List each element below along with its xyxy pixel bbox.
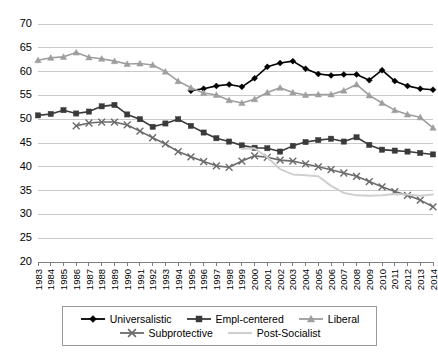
x-axis-tick-label: 2008 bbox=[351, 269, 362, 290]
data-point bbox=[213, 83, 219, 89]
legend-label: Liberal bbox=[328, 313, 360, 325]
series-empl-centered bbox=[35, 102, 435, 157]
y-axis-tick-label: 40 bbox=[20, 160, 32, 172]
x-axis-tick-label: 1998 bbox=[224, 269, 235, 290]
x-axis-tick-label: 1988 bbox=[96, 269, 107, 290]
data-point bbox=[73, 49, 79, 55]
data-point bbox=[379, 100, 385, 106]
data-point bbox=[430, 203, 437, 210]
data-point bbox=[354, 71, 360, 77]
data-point bbox=[277, 149, 282, 154]
data-point bbox=[367, 142, 372, 147]
y-axis-tick-label: 35 bbox=[20, 184, 32, 196]
data-point bbox=[176, 117, 181, 122]
series-universalistic bbox=[188, 58, 436, 94]
chart-legend: UniversalisticEmpl-centeredLiberal Subpr… bbox=[62, 306, 377, 346]
x-axis-tick-label: 1996 bbox=[198, 269, 209, 290]
legend-marker-triangle-icon bbox=[298, 313, 324, 325]
data-point bbox=[405, 149, 410, 154]
data-point bbox=[353, 81, 359, 87]
legend-item-post-socialist[interactable]: Post-Socialist bbox=[227, 327, 321, 339]
series-liberal bbox=[35, 49, 436, 130]
x-axis-tick-label: 1999 bbox=[236, 269, 247, 290]
plot-area: 2025303540455055606570198319841985198619… bbox=[0, 0, 438, 300]
data-point bbox=[188, 123, 193, 128]
x-axis-tick-label: 2014 bbox=[428, 269, 438, 290]
data-point bbox=[328, 136, 333, 141]
x-axis-tick-label: 1986 bbox=[71, 269, 82, 290]
legend-item-empl-centered[interactable]: Empl-centered bbox=[186, 313, 284, 325]
data-point bbox=[150, 124, 155, 129]
data-point bbox=[392, 148, 397, 153]
y-axis-tick-label: 45 bbox=[20, 136, 32, 148]
data-point bbox=[239, 143, 244, 148]
data-point bbox=[74, 111, 79, 116]
legend-label: Subprotective bbox=[149, 327, 213, 339]
x-axis-tick-label: 1987 bbox=[84, 269, 95, 290]
x-axis-tick-label: 2010 bbox=[377, 269, 388, 290]
x-axis-tick-label: 1995 bbox=[186, 269, 197, 290]
data-point bbox=[214, 136, 219, 141]
data-point bbox=[290, 143, 295, 148]
x-axis-tick-label: 1994 bbox=[173, 269, 184, 290]
data-point bbox=[354, 135, 359, 140]
x-axis-tick-label: 2013 bbox=[415, 269, 426, 290]
data-point bbox=[277, 85, 283, 91]
legend-row-2: SubprotectivePost-Socialist bbox=[119, 327, 321, 339]
data-point bbox=[162, 141, 169, 148]
data-point bbox=[99, 104, 104, 109]
x-axis-tick-label: 1985 bbox=[58, 269, 69, 290]
data-point bbox=[303, 139, 308, 144]
x-axis-tick-label: 2003 bbox=[287, 269, 298, 290]
y-axis-tick-label: 65 bbox=[20, 41, 32, 53]
x-axis-tick-label: 2007 bbox=[338, 269, 349, 290]
x-axis-tick-label: 1993 bbox=[160, 269, 171, 290]
legend-marker-diamond-icon bbox=[80, 313, 106, 325]
x-axis-tick-label: 2004 bbox=[300, 269, 311, 290]
data-point bbox=[392, 107, 398, 113]
data-point bbox=[175, 148, 182, 155]
series-line bbox=[38, 105, 433, 155]
y-axis-tick-label: 70 bbox=[20, 17, 32, 29]
data-point bbox=[417, 197, 424, 204]
legend-label: Post-Socialist bbox=[257, 327, 321, 339]
x-axis-tick-label: 2001 bbox=[262, 269, 273, 290]
legend-row-1: UniversalisticEmpl-centeredLiberal bbox=[80, 313, 360, 325]
x-axis-tick-label: 2002 bbox=[275, 269, 286, 290]
series-subprotective bbox=[73, 119, 437, 211]
x-axis-tick-label: 2006 bbox=[326, 269, 337, 290]
y-axis-tick-label: 30 bbox=[20, 207, 32, 219]
data-point bbox=[316, 138, 321, 143]
legend-item-subprotective[interactable]: Subprotective bbox=[119, 327, 213, 339]
data-point bbox=[227, 139, 232, 144]
x-axis-tick-label: 2009 bbox=[364, 269, 375, 290]
series-line bbox=[76, 122, 433, 207]
legend-item-liberal[interactable]: Liberal bbox=[298, 313, 360, 325]
data-point bbox=[226, 81, 232, 87]
x-axis-tick-label: 2000 bbox=[249, 269, 260, 290]
legend-marker-none-icon bbox=[227, 327, 253, 339]
data-point bbox=[341, 139, 346, 144]
x-axis-tick-label: 1984 bbox=[45, 269, 56, 290]
legend-label: Universalistic bbox=[110, 313, 172, 325]
y-axis-tick-label: 20 bbox=[20, 255, 32, 267]
data-point bbox=[277, 60, 283, 66]
data-point bbox=[430, 152, 435, 157]
x-axis-tick-label: 1990 bbox=[122, 269, 133, 290]
y-axis-tick-label: 25 bbox=[20, 231, 32, 243]
legend-item-universalistic[interactable]: Universalistic bbox=[80, 313, 172, 325]
series-line bbox=[191, 61, 433, 91]
data-point bbox=[137, 117, 142, 122]
x-axis-tick-label: 2012 bbox=[402, 269, 413, 290]
data-point bbox=[379, 183, 386, 190]
data-point bbox=[328, 72, 334, 78]
data-point bbox=[366, 178, 373, 185]
legend-marker-x-icon bbox=[119, 327, 145, 339]
data-point bbox=[379, 147, 384, 152]
data-point bbox=[238, 158, 245, 165]
chart-svg: 2025303540455055606570198319841985198619… bbox=[0, 0, 438, 300]
x-axis-tick-label: 2005 bbox=[313, 269, 324, 290]
data-point bbox=[149, 134, 156, 141]
data-point bbox=[48, 111, 53, 116]
data-point bbox=[137, 128, 144, 135]
